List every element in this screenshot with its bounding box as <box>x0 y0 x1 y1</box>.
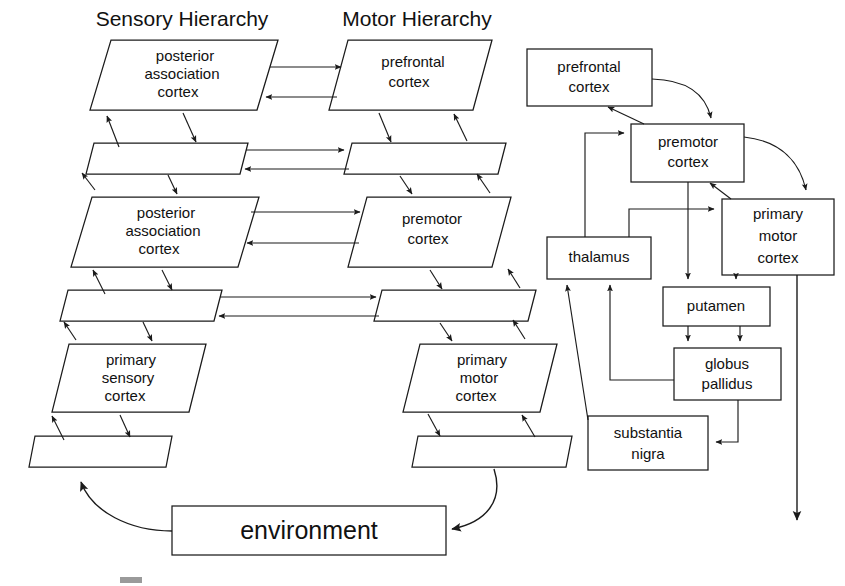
node-label-line1: primary <box>457 351 508 368</box>
edge-motor-bar3-to-environment <box>452 469 497 529</box>
node-premotor-cortex-right[interactable]: premotor cortex <box>631 124 744 182</box>
edge-bar1-to-pac-mid <box>168 175 177 194</box>
edge-pac-top-to-bar1 <box>183 113 196 142</box>
caption-swatch <box>120 577 142 583</box>
node-label-line1: primary <box>106 351 157 368</box>
connector-bar-sensory-3[interactable] <box>29 436 172 467</box>
edge-m1-to-motorbar2 <box>513 320 525 339</box>
edge-bar1-to-pac-top <box>107 116 119 147</box>
edge-motorbar2-to-premotor <box>508 269 520 288</box>
edge-motorbar2-to-m1 <box>440 323 452 341</box>
node-label-line1: globus <box>705 355 749 372</box>
edge-motorbar1-to-pfc <box>454 114 467 141</box>
edge-right-premotor-to-prefrontal <box>608 107 644 124</box>
edge-premotor-to-motorbar2 <box>430 270 442 289</box>
node-primary-motor-cortex-left[interactable]: primary motor cortex <box>403 344 557 412</box>
node-posterior-association-cortex-top[interactable]: posterior association cortex <box>90 40 278 110</box>
node-putamen[interactable]: putamen <box>663 287 770 326</box>
edge-premotor-to-motorbar1 <box>477 174 490 193</box>
edge-m1-to-motorbar3 <box>428 414 440 436</box>
edge-right-premotor-to-m1 <box>744 137 806 190</box>
node-label-line1: premotor <box>658 133 718 150</box>
edge-psc-to-bar2 <box>64 322 76 340</box>
edge-globus-to-substantia-nigra <box>716 400 738 442</box>
node-label-line2: cortex <box>569 78 610 95</box>
node-globus-pallidus[interactable]: globus pallidus <box>674 348 781 400</box>
edge-right-prefrontal-to-premotor <box>652 79 711 118</box>
edge-thalamus-to-right-premotor <box>585 133 624 237</box>
node-environment[interactable]: environment <box>172 506 446 555</box>
connector-bar-motor-1[interactable] <box>344 143 506 174</box>
edge-pac-mid-to-bar1 <box>82 173 95 190</box>
edge-substantia-nigra-to-thalamus <box>567 285 588 420</box>
node-premotor-cortex-left[interactable]: premotor cortex <box>348 197 511 267</box>
sensory-hierarchy-title: Sensory Hierarchy <box>96 7 269 30</box>
edge-psc-to-bar3 <box>120 415 130 437</box>
node-label-line1: premotor <box>402 210 462 227</box>
node-label-line3: cortex <box>105 387 146 404</box>
node-label-line2: cortex <box>408 230 449 247</box>
node-thalamus[interactable]: thalamus <box>547 237 651 279</box>
node-label-line1: thalamus <box>569 248 630 265</box>
environment-label: environment <box>240 516 378 544</box>
node-primary-sensory-cortex[interactable]: primary sensory cortex <box>52 344 206 412</box>
node-label-line2: cortex <box>389 73 430 90</box>
node-posterior-association-cortex-mid[interactable]: posterior association cortex <box>71 197 259 267</box>
motor-hierarchy-title: Motor Hierarchy <box>342 7 492 30</box>
node-label-line2: association <box>125 222 200 239</box>
node-label-line2: nigra <box>631 445 665 462</box>
node-label-line1: prefrontal <box>557 58 620 75</box>
node-label-line1: prefrontal <box>381 53 444 70</box>
node-prefrontal-cortex-right[interactable]: prefrontal cortex <box>527 49 652 106</box>
node-label-line1: posterior <box>137 204 195 221</box>
node-label-line1: putamen <box>687 297 745 314</box>
node-label-line3: cortex <box>758 249 799 266</box>
node-label-line3: cortex <box>456 387 497 404</box>
edge-bar2-to-psc <box>143 322 152 341</box>
connector-bar-sensory-1[interactable] <box>86 143 248 174</box>
edge-thalamus-to-right-m1 <box>629 209 714 237</box>
node-label-line2: cortex <box>668 153 709 170</box>
node-label-line3: cortex <box>158 83 199 100</box>
connector-bar-sensory-2[interactable] <box>60 290 222 321</box>
node-label-line1: posterior <box>156 47 214 64</box>
node-label-line2: sensory <box>102 369 155 386</box>
node-label-line2: pallidus <box>702 375 753 392</box>
edge-environment-to-sensory-bar3 <box>81 482 172 531</box>
node-label-line2: motor <box>460 369 498 386</box>
node-label-line2: association <box>144 65 219 82</box>
edge-pfc-to-motorbar1 <box>379 113 391 142</box>
diagram-root: Sensory Hierarchy Motor Hierarchy poster… <box>0 0 845 586</box>
node-primary-motor-cortex-right[interactable]: primary motor cortex <box>722 199 834 275</box>
node-label-line1: primary <box>753 205 804 222</box>
caption-strip <box>0 572 845 586</box>
edge-motorbar3-to-m1 <box>522 415 535 437</box>
node-prefrontal-cortex[interactable]: prefrontal cortex <box>329 40 492 110</box>
edge-right-m1-to-premotor <box>710 183 731 199</box>
node-substantia-nigra[interactable]: substantia nigra <box>588 416 708 470</box>
node-label-line2: motor <box>759 227 797 244</box>
connector-bar-motor-2[interactable] <box>374 290 536 321</box>
edge-motorbar1-to-premotor <box>400 176 412 194</box>
node-label-line3: cortex <box>139 240 180 257</box>
edge-pac-mid-to-bar2 <box>162 270 172 290</box>
brain-motor-control-diagram: Sensory Hierarchy Motor Hierarchy poster… <box>0 0 845 586</box>
connector-bar-motor-3[interactable] <box>412 436 572 467</box>
node-label-line1: substantia <box>614 424 683 441</box>
